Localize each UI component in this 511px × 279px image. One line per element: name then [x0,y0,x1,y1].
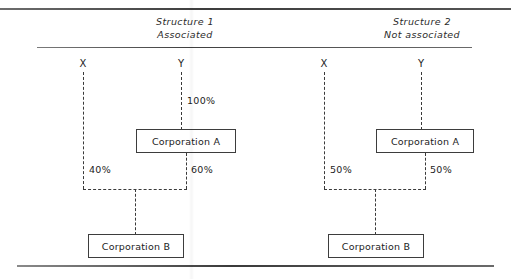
panel-2-connector-x-vertical [324,72,325,189]
panel-1-connector-junction-to-corp-b [135,189,136,235]
panel-1-owner-x-label: X [75,58,91,69]
panel-1-connector-y-to-corp-a [181,72,182,130]
panel-2-owner-x-label: X [316,58,332,69]
panel-2-percent-x-corp-b: 50% [330,164,352,175]
panel-2-connector-corp-a-down [425,153,426,189]
panel-2-connector-y-to-corp-a [421,72,422,130]
panel-2-title-line-2: Not associated [342,29,502,42]
panel-2-title: Structure 2 Not associated [342,16,502,41]
figure-canvas: Structure 1 Associated X Y 100% Corporat… [0,0,511,279]
panel-2-owner-y-label: Y [413,58,429,69]
panel-1-owner-y-label: Y [173,58,189,69]
panel-2-corporation-a-box: Corporation A [376,129,474,153]
panel-2-corporation-a-label: Corporation A [391,136,459,147]
panel-1-connector-corp-a-down [186,153,187,189]
panel-2-title-line-1: Structure 2 [393,16,451,27]
panel-1-corporation-b-label: Corporation B [102,241,170,252]
panel-1-connector-x-vertical [83,72,84,189]
panel-1-title-line-2: Associated [105,29,265,42]
panel-2-corporation-b-box: Corporation B [328,234,424,258]
panel-1-corporation-a-box: Corporation A [136,129,236,153]
panel-1-corporation-a-label: Corporation A [152,136,220,147]
figure-bottom-rule [17,265,494,267]
panel-2-corporation-b-label: Corporation B [342,241,410,252]
panel-1-title: Structure 1 Associated [105,16,265,41]
panel-2-connector-junction-to-corp-b [375,189,376,235]
panel-1-percent-corp-a-corp-b: 60% [191,164,213,175]
panel-1-percent-y-corp-a: 100% [187,95,215,106]
figure-top-rule [0,8,511,10]
panel-1-corporation-b-box: Corporation B [88,234,184,258]
panel-2-percent-corp-a-corp-b: 50% [430,164,452,175]
panel-1-title-line-1: Structure 1 [156,16,214,27]
figure-header-rule [37,47,472,48]
panel-1-percent-x-corp-b: 40% [89,164,111,175]
